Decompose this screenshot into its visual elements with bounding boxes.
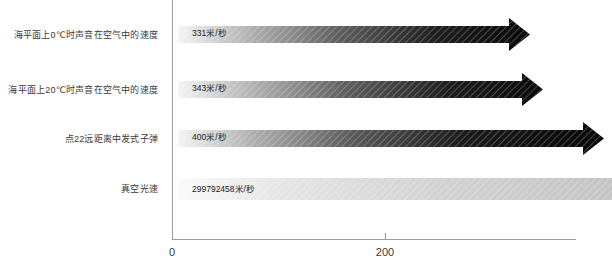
bar-series-1 <box>178 71 553 111</box>
plot-area: 331米/秒 343米/秒 400米/秒 299792458米/秒 <box>172 0 576 240</box>
category-label-3: 真空光速 <box>121 183 158 195</box>
data-label-0: 331米/秒 <box>192 29 227 38</box>
data-label-3: 299792458米/秒 <box>192 185 255 194</box>
x-axis-line <box>172 239 576 240</box>
data-label-1: 343米/秒 <box>192 84 227 93</box>
category-label-1: 海平面上20℃时声音在空气中的速度 <box>8 84 158 96</box>
x-tick-0 <box>172 233 173 239</box>
category-label-2: 点22远距离中发式子弹 <box>65 133 158 145</box>
y-axis-line <box>172 0 173 240</box>
bar-series-0 <box>178 16 538 56</box>
data-label-2: 400米/秒 <box>192 133 227 142</box>
bars-svg <box>172 0 612 240</box>
x-tick-label-0: 0 <box>169 246 175 258</box>
category-label-0: 海平面上0℃时声音在空气中的速度 <box>14 29 158 41</box>
x-tick-label-200: 200 <box>376 246 394 258</box>
bar-series-2 <box>178 120 612 160</box>
x-tick-200 <box>385 233 386 239</box>
